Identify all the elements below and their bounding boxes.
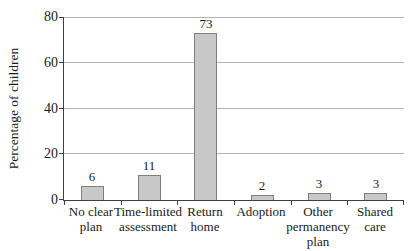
bar-chart: Percentage of children 61173233 02040608… bbox=[0, 0, 418, 251]
y-axis-tick bbox=[59, 108, 64, 109]
category-label: Shared care bbox=[335, 204, 415, 234]
gridline bbox=[64, 108, 404, 109]
y-axis-tick bbox=[59, 62, 64, 63]
bar-value-label: 3 bbox=[299, 177, 339, 191]
bar-value-label: 2 bbox=[242, 179, 282, 193]
y-tick-label: 40 bbox=[18, 101, 58, 117]
y-tick-label: 80 bbox=[18, 9, 58, 25]
y-axis-tick bbox=[59, 153, 64, 154]
plot-area: 61173233 bbox=[63, 17, 404, 201]
bar-3 bbox=[194, 33, 217, 200]
bar-value-label: 3 bbox=[356, 177, 396, 191]
bar-6 bbox=[364, 193, 387, 200]
gridline bbox=[64, 17, 404, 18]
bar-value-label: 11 bbox=[129, 159, 169, 173]
bar-2 bbox=[138, 175, 161, 200]
bar-1 bbox=[81, 186, 104, 200]
y-tick-label: 60 bbox=[18, 55, 58, 71]
gridline bbox=[64, 62, 404, 63]
gridline bbox=[64, 153, 404, 154]
bar-value-label: 6 bbox=[72, 170, 112, 184]
y-tick-label: 20 bbox=[18, 146, 58, 162]
y-axis-tick bbox=[59, 17, 64, 18]
bar-4 bbox=[251, 195, 274, 200]
y-axis-tick bbox=[59, 199, 64, 200]
bar-value-label: 73 bbox=[186, 17, 226, 31]
bar-5 bbox=[308, 193, 331, 200]
